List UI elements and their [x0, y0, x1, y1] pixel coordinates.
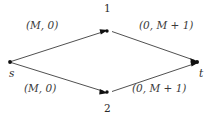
node-dot-2	[105, 90, 108, 93]
edge-label-1-to-t: (0, M + 1)	[139, 20, 193, 31]
node-dot-1	[105, 29, 108, 32]
node-label-t: t	[199, 68, 203, 79]
edge-1-to-t	[112, 32, 195, 61]
node-label-s: s	[9, 68, 14, 79]
edge-label-2-to-t: (0, M + 1)	[132, 83, 186, 94]
edge-label-s-to-2: (M, 0)	[24, 83, 56, 94]
network-diagram-figure: (M, 0) (0, M + 1) (M, 0) (0, M + 1) 1 2 …	[0, 0, 216, 118]
edge-label-s-to-1: (M, 0)	[26, 20, 58, 31]
node-label-2: 2	[104, 103, 111, 114]
node-dot-t	[195, 60, 199, 64]
node-label-1: 1	[104, 3, 111, 14]
edge-s-to-1	[11, 32, 104, 62]
node-dot-s	[8, 60, 12, 64]
graph-canvas	[0, 0, 216, 118]
